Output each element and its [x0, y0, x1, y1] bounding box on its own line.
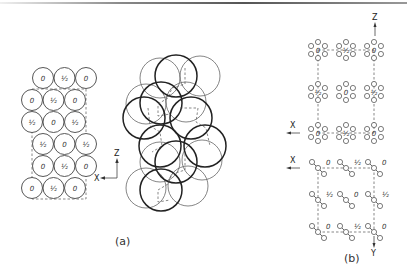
ring-atom [336, 126, 341, 131]
edge-on-ring-atom [309, 223, 314, 228]
ring-atom [371, 97, 376, 102]
height-label: ½ [354, 223, 361, 231]
ring-atom [350, 93, 355, 98]
edge-on-ring-atom [349, 203, 354, 208]
height-label: ½ [315, 89, 322, 97]
ring-atom [322, 85, 327, 90]
height-label: 0 [51, 119, 56, 127]
ring-atom [343, 39, 348, 44]
height-label: ½ [343, 47, 350, 55]
height-label: ½ [326, 191, 333, 199]
height-label: 0 [30, 185, 35, 193]
ring-atom [315, 138, 320, 143]
ring-atom [322, 51, 327, 56]
panel-b-projection: 0½0½0½0½00½0½0½0½0 [308, 39, 389, 240]
edge-on-ring-atom [321, 171, 326, 176]
ring-atom [350, 126, 355, 131]
edge-on-ring-atom [321, 203, 326, 208]
height-label: 0 [84, 75, 89, 83]
panel-a-circle-grid: 0½00½0½0½½0½0½00½0 [22, 68, 97, 200]
ring-atom [343, 138, 348, 143]
panel-a-molecule-packing [123, 55, 226, 211]
ring-atom [378, 43, 383, 48]
height-label: ½ [72, 119, 79, 127]
ring-atom [378, 85, 383, 90]
ring-atom [315, 81, 320, 86]
ring-atom [308, 43, 313, 48]
ring-atom [343, 97, 348, 102]
edge-on-ring-atom [365, 159, 370, 164]
ring-atom [315, 55, 320, 60]
ring-atom [371, 122, 376, 127]
ring-atom [378, 126, 383, 131]
height-label: 0 [73, 185, 78, 193]
ring-atom [350, 51, 355, 56]
edge-on-ring-atom [337, 191, 342, 196]
edge-on-ring-atom [377, 203, 382, 208]
panel-b-caption: (b) [344, 252, 360, 265]
height-label: 0 [382, 223, 387, 231]
edge-on-ring-atom [343, 197, 348, 202]
edge-on-ring-atom [337, 223, 342, 228]
ring-atom [364, 93, 369, 98]
edge-on-ring-atom [321, 235, 326, 240]
height-label: 0 [344, 89, 349, 97]
edge-on-ring-atom [365, 223, 370, 228]
edge-on-ring-atom [371, 197, 376, 202]
axis-y-label-b: Y [370, 249, 376, 258]
axis-z-label-b: Z [372, 13, 378, 22]
axis-z-label: Z [114, 149, 120, 158]
ring-atom [336, 93, 341, 98]
ring-atom [322, 134, 327, 139]
ring-atom [315, 97, 320, 102]
height-label: 0 [326, 159, 331, 167]
height-label: ½ [61, 75, 68, 83]
ring-atom [308, 134, 313, 139]
ring-atom [336, 43, 341, 48]
height-label: 0 [73, 97, 78, 105]
edge-on-ring-atom [371, 165, 376, 170]
ring-atom [336, 134, 341, 139]
ring-atom [371, 138, 376, 143]
ring-atom [308, 93, 313, 98]
edge-on-ring-atom [377, 235, 382, 240]
edge-on-ring-atom [337, 159, 342, 164]
edge-on-ring-atom [315, 197, 320, 202]
crystal-structure-diagram: 0½00½0½0½½0½0½00½0 Z X (a) 0 [0, 0, 407, 277]
ring-atom [308, 51, 313, 56]
height-label: ½ [354, 159, 361, 167]
ring-atom [308, 85, 313, 90]
height-label: 0 [84, 163, 89, 171]
height-label: ½ [343, 130, 350, 138]
height-label: ½ [29, 119, 36, 127]
edge-on-ring-atom [343, 165, 348, 170]
height-label: ½ [371, 89, 378, 97]
ring-atom [371, 39, 376, 44]
ring-atom [322, 43, 327, 48]
height-label: 0 [372, 47, 377, 55]
ring-atom [371, 81, 376, 86]
ring-atom [308, 126, 313, 131]
edge-on-ring-atom [315, 229, 320, 234]
ring-atom [378, 134, 383, 139]
edge-on-ring-atom [349, 171, 354, 176]
axis-x-label-b-top: X [290, 121, 296, 130]
height-label: ½ [40, 141, 47, 149]
edge-on-ring-atom [349, 235, 354, 240]
height-label: 0 [316, 47, 321, 55]
ring-atom [343, 122, 348, 127]
edge-on-ring-atom [371, 229, 376, 234]
ring-atom [364, 134, 369, 139]
axis-x-label: X [94, 174, 100, 183]
ring-atom [322, 126, 327, 131]
edge-on-ring-atom [377, 171, 382, 176]
height-label: 0 [372, 130, 377, 138]
edge-on-ring-atom [315, 165, 320, 170]
height-label: ½ [50, 185, 57, 193]
ring-atom [315, 122, 320, 127]
ring-atom [350, 85, 355, 90]
height-label: 0 [41, 75, 46, 83]
ring-atom [343, 55, 348, 60]
edge-on-ring-atom [309, 159, 314, 164]
height-label: 0 [41, 163, 46, 171]
